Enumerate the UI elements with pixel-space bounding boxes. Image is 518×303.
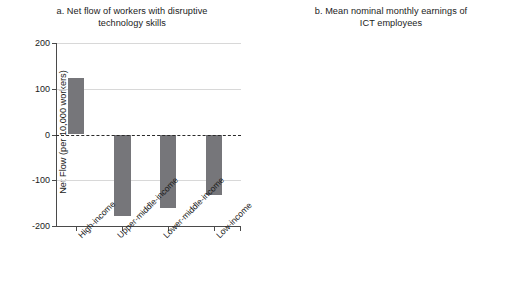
panel-a-title-line1: a. Net flow of workers with disruptive	[57, 6, 208, 16]
panel-a-y-axis-title: Net Flow (per 10,000 workers)	[58, 52, 68, 212]
panel-b-title: b. Mean nominal monthly earnings of ICT …	[273, 6, 509, 29]
panel-a-xtick-mark-5	[240, 226, 241, 231]
bar-a-high-income	[68, 78, 84, 134]
panel-a-ytick-mark-100	[52, 89, 57, 90]
panel-a-xlabel-high-income: High-income	[76, 199, 117, 240]
chart-panel-b: b. Mean nominal monthly earnings of ICT …	[259, 0, 518, 303]
panel-a-ytick-mark-neg100	[52, 180, 57, 181]
panel-b-title-line2: ICT employees	[360, 18, 422, 28]
panel-a-ytick-label-200: 200	[35, 38, 50, 48]
panel-a-ytick-label-neg200: -200	[32, 221, 50, 231]
panel-a-ytick-mark-200	[52, 43, 57, 44]
panel-b-title-line1: b. Mean nominal monthly earnings of	[315, 6, 467, 16]
figure-container: a. Net flow of workers with disruptive t…	[0, 0, 518, 303]
chart-panel-a: a. Net flow of workers with disruptive t…	[0, 0, 259, 303]
panel-a-title-line2: technology skills	[98, 18, 166, 28]
panel-a-title: a. Net flow of workers with disruptive t…	[14, 6, 250, 29]
panel-a-gridline-100	[57, 89, 241, 90]
bar-a-upper-middle-income	[114, 135, 131, 216]
panel-a-ytick-mark-neg200	[52, 226, 57, 227]
panel-a-gridline-200	[57, 43, 241, 44]
panel-a-ytick-label-neg100: -100	[32, 175, 50, 185]
panel-a-xlabel-low-income: Low-income	[214, 200, 254, 240]
panel-a-ytick-label-0: 0	[45, 130, 50, 140]
panel-a-ytick-label-100: 100	[35, 84, 50, 94]
panel-a-zero-line	[56, 135, 241, 136]
